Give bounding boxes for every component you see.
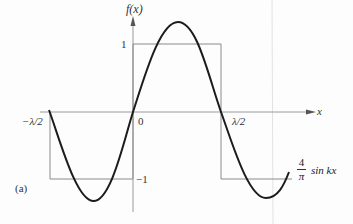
tick-label-x-origin: 0 (138, 116, 144, 127)
y-axis-label: f(x) (126, 3, 143, 15)
tick-label-y-one: 1 (121, 39, 127, 50)
fraction: 4 π (297, 157, 306, 182)
x-axis-label: x (317, 106, 322, 117)
y-axis-arrow-icon (131, 16, 136, 26)
panel-label: (a) (15, 183, 27, 194)
tick-label-y-neg-one: −1 (136, 174, 148, 185)
fraction-numerator: 4 (299, 157, 305, 168)
fraction-denominator: π (299, 171, 305, 182)
x-axis-arrow-icon (306, 110, 316, 115)
square-wave-fourier-diagram (0, 0, 353, 224)
tick-label-x-half-lambda: λ/2 (232, 116, 245, 127)
curve-label-text: sin kx (311, 164, 336, 176)
curve-label: 4 π sin kx (297, 157, 336, 182)
tick-label-x-neg-half-lambda: −λ/2 (22, 116, 43, 127)
